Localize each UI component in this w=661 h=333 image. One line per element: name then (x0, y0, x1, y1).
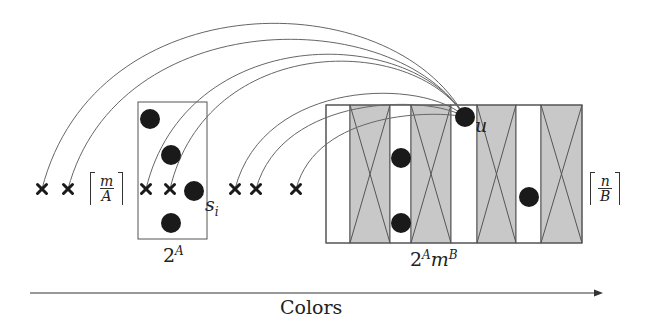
x-mark-icon (166, 185, 175, 194)
label-exponent-2: B (449, 248, 458, 262)
i-subscript: i (215, 205, 219, 219)
column-white (326, 105, 350, 243)
diagram-canvas (0, 0, 661, 333)
label-exponent-1: A (422, 248, 431, 262)
fraction-numerator: m (98, 174, 115, 188)
diagram-stage: m A si 2A u n B 2AmB Colors (0, 0, 661, 333)
axis-label-colors: Colors (280, 296, 342, 318)
fraction-m-over-A: m A (98, 174, 115, 203)
dot (161, 145, 181, 165)
right-block-columns (326, 105, 582, 243)
x-mark-icon (292, 185, 301, 194)
label-base: 2 (163, 244, 175, 266)
fraction-denominator: B (598, 188, 612, 203)
dot-label-s-i: si (205, 193, 219, 219)
ceil-m-over-A: m A (90, 172, 123, 205)
fraction-numerator: n (599, 174, 612, 188)
arrowhead-icon (594, 290, 603, 297)
dot (161, 213, 181, 233)
label-base: 2 (410, 248, 422, 270)
dot (391, 148, 411, 168)
fraction-denominator: A (100, 188, 114, 203)
dot (140, 109, 160, 129)
ceil-n-over-B: n B (590, 172, 620, 205)
column-white (516, 105, 541, 243)
dot-label-u: u (475, 114, 487, 136)
x-mark-icon (142, 185, 151, 194)
s-symbol: s (205, 193, 215, 215)
fraction-n-over-B: n B (598, 174, 612, 203)
x-mark-icon (231, 185, 240, 194)
dot (184, 181, 204, 201)
dot (391, 213, 411, 233)
u-symbol: u (475, 114, 487, 136)
x-marks (38, 185, 301, 194)
dot-u (455, 107, 475, 127)
label-m: m (431, 248, 449, 270)
x-mark-icon (252, 185, 261, 194)
label-exponent: A (175, 244, 184, 258)
right-block-label: 2AmB (410, 248, 458, 270)
dot (519, 187, 539, 207)
left-block-label: 2A (163, 244, 184, 266)
x-mark-icon (64, 185, 73, 194)
x-mark-icon (38, 185, 47, 194)
